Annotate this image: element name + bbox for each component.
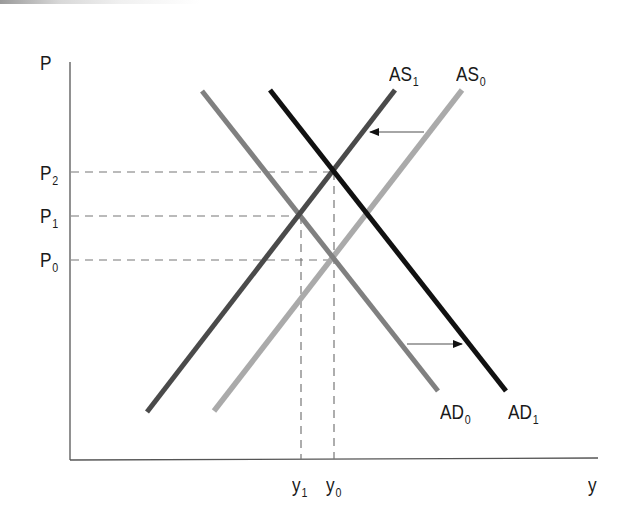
label-y0-base: y <box>326 473 335 496</box>
curve-as1 <box>147 90 395 412</box>
label-as1: AS1 <box>389 63 419 88</box>
y-axis-label-text: P <box>40 51 51 74</box>
label-as1-sub: 1 <box>413 74 419 89</box>
label-y0-sub: 0 <box>335 485 341 500</box>
curve-ad1 <box>270 90 506 391</box>
label-ad0-sub: 0 <box>465 412 471 427</box>
label-p1-base: P <box>40 204 51 227</box>
as-ad-diagram <box>0 0 636 524</box>
x-axis-label: y <box>588 474 597 495</box>
label-y1-sub: 1 <box>301 485 307 500</box>
label-ad0: AD0 <box>440 401 471 426</box>
label-y1: y1 <box>292 474 307 499</box>
label-y0: y0 <box>326 474 341 499</box>
label-p2: P2 <box>40 162 58 187</box>
label-p1-sub: 1 <box>52 216 58 231</box>
label-p0-base: P <box>40 248 51 271</box>
guide-lines <box>71 172 334 459</box>
x-axis-label-text: y <box>588 473 597 496</box>
label-as0-base: AS <box>456 62 479 85</box>
label-p2-sub: 2 <box>52 173 58 188</box>
label-ad0-base: AD <box>440 400 464 423</box>
label-as0: AS0 <box>456 63 486 88</box>
curve-ad0 <box>202 91 438 391</box>
label-as1-base: AS <box>389 62 412 85</box>
label-ad1-sub: 1 <box>533 412 539 427</box>
label-p1: P1 <box>40 205 58 230</box>
y-axis-label: P <box>40 52 51 73</box>
label-y1-base: y <box>292 473 301 496</box>
label-as0-sub: 0 <box>480 74 486 89</box>
label-p2-base: P <box>40 161 51 184</box>
label-p0-sub: 0 <box>52 260 58 275</box>
curve-as0 <box>214 90 462 411</box>
label-p0: P0 <box>40 249 58 274</box>
label-ad1: AD1 <box>508 401 539 426</box>
label-ad1-base: AD <box>508 400 532 423</box>
